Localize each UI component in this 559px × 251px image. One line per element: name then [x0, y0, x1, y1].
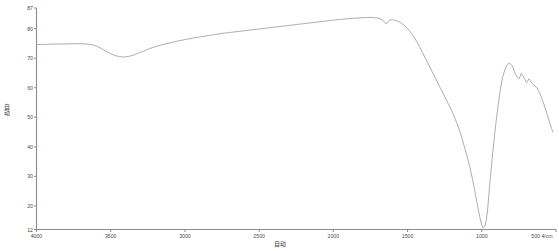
y-tick-label: 70	[14, 55, 33, 61]
x-axis-title: 自动	[0, 239, 559, 248]
x-tick-label: 4000	[17, 233, 57, 239]
y-tick-label: 87	[14, 5, 33, 11]
y-tick-label: 60	[14, 85, 33, 91]
spectrum-curve	[37, 17, 554, 228]
y-tick-label: 30	[14, 173, 33, 179]
ftir-spectrum-chart: 122030405060708087 400035003000250020001…	[0, 0, 559, 251]
x-tick-label: 1500	[388, 233, 428, 239]
x-tick-label: 2500	[239, 233, 279, 239]
y-tick-label: 40	[14, 144, 33, 150]
x-tick-label: 3000	[165, 233, 205, 239]
y-tick-label: 50	[14, 114, 33, 120]
y-tick-label: 20	[14, 203, 33, 209]
y-tick-label: 80	[14, 26, 33, 32]
x-tick-label: 1000	[462, 233, 502, 239]
x-tick-label: 2000	[313, 233, 353, 239]
y-axis-title: 自动	[2, 104, 11, 116]
x-tick-label: 3500	[91, 233, 131, 239]
plot-area	[0, 0, 559, 251]
x-tick-label: 500 4/cm	[522, 233, 559, 239]
